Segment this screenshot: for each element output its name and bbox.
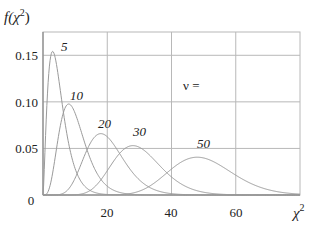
curve-label-5: 5 xyxy=(61,39,68,54)
curve-label-50: 50 xyxy=(197,136,211,151)
y-tick-label: 0.10 xyxy=(15,95,38,110)
x-tick-label: 20 xyxy=(101,205,114,220)
curve-label-20: 20 xyxy=(98,116,112,131)
grid-lines xyxy=(43,32,300,195)
chi-square-chart: f(χ2) 0.15 0.10 0.05 0 20 40 60 χ2 ν = 5… xyxy=(0,0,319,227)
curve-label-30: 30 xyxy=(132,124,147,139)
curve-label-10: 10 xyxy=(70,88,84,103)
x-tick-label: 60 xyxy=(230,205,243,220)
y-tick-label: 0.05 xyxy=(15,141,38,156)
y-tick-label: 0.15 xyxy=(15,48,38,63)
x-tick-label: 40 xyxy=(165,205,178,220)
x-axis-label: χ2 xyxy=(291,202,305,221)
y-axis-label: f(χ2) xyxy=(4,7,30,26)
y-tick-label: 0 xyxy=(28,193,35,208)
legend-title-nu: ν = xyxy=(183,78,199,93)
